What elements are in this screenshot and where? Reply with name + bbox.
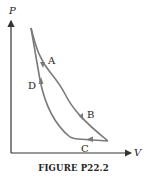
pv-diagram-graphic: [0, 0, 147, 179]
label-a: A: [48, 56, 55, 66]
process-d-curve: [31, 28, 70, 137]
y-axis-label: P: [9, 6, 16, 16]
figure-caption: FIGURE P22.2: [0, 163, 147, 173]
arrow-c-icon: [86, 137, 93, 143]
label-c: C: [81, 144, 89, 154]
process-ab-curve: [31, 28, 108, 141]
label-b: B: [87, 110, 94, 120]
pv-diagram-figure: P V A D B C FIGURE P22.2: [0, 0, 147, 179]
label-d: D: [28, 81, 36, 91]
x-axis-label: V: [134, 148, 141, 158]
